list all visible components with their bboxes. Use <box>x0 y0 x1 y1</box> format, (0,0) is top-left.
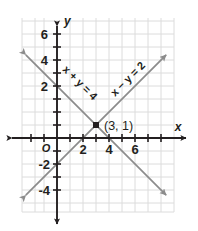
y-axis-label: y <box>63 14 72 28</box>
intersection-point-label: (3, 1) <box>104 119 133 133</box>
x-tick-label-6: 6 <box>131 142 138 157</box>
x-tick-label-4: 4 <box>105 142 113 157</box>
x-axis-label: x <box>174 120 183 134</box>
origin-label: O <box>42 142 51 154</box>
y-tick-label-2: 2 <box>41 79 48 94</box>
y-tick-label-negative-4: -4 <box>38 183 50 198</box>
coordinate-plane: 6 4 2 -2 -4 2 4 6 O y x (3, 1) x + y = 4… <box>0 0 198 231</box>
equation-label-x-plus-y: x + y = 4 <box>61 63 101 103</box>
intersection-point-marker <box>93 122 99 128</box>
y-tick-label-6: 6 <box>41 27 48 42</box>
x-tick-label-2: 2 <box>79 142 86 157</box>
y-tick-label-4: 4 <box>41 53 49 68</box>
graph-figure: 6 4 2 -2 -4 2 4 6 O y x (3, 1) x + y = 4… <box>0 0 198 231</box>
y-tick-label-negative-2: -2 <box>38 157 50 172</box>
